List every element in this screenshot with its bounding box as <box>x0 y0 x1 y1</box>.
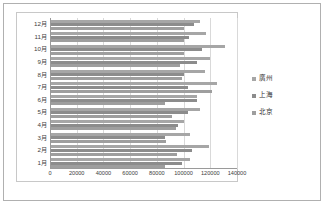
legend-swatch-icon <box>252 111 256 115</box>
bar <box>50 57 210 60</box>
x-tick-label: 20000 <box>69 171 85 177</box>
bar <box>50 140 166 143</box>
legend-label: 廣州 <box>259 75 273 82</box>
x-tick-label: 120000 <box>201 171 220 177</box>
bar <box>50 99 197 102</box>
category-label: 3月 <box>38 135 47 141</box>
x-tick-label: 40000 <box>96 171 112 177</box>
bar <box>50 48 202 51</box>
bar <box>50 86 188 89</box>
bar <box>50 111 188 114</box>
bar <box>50 52 184 55</box>
bar <box>50 39 184 42</box>
category-label: 7月 <box>38 84 47 90</box>
bar <box>50 162 182 165</box>
bar <box>50 153 177 156</box>
category-label: 4月 <box>38 122 47 128</box>
category-label: 6月 <box>38 97 47 103</box>
bar <box>50 102 165 105</box>
category-label: 5月 <box>38 109 47 115</box>
chart-legend: 廣州上海北京 <box>252 74 314 125</box>
x-tick-label: 80000 <box>149 171 165 177</box>
y-axis-line <box>50 18 51 169</box>
bar <box>50 127 176 130</box>
category-label: 2月 <box>38 147 47 153</box>
legend-swatch-icon <box>252 77 256 81</box>
category-label: 12月 <box>34 21 47 27</box>
bar <box>50 70 205 73</box>
bar <box>50 158 190 161</box>
x-axis-line <box>50 168 237 169</box>
x-tick-label: 0 <box>48 171 51 177</box>
gridline <box>237 18 238 169</box>
bar <box>50 95 197 98</box>
chart-frame: 1月2月3月4月5月6月7月8月9月10月11月12月 020000400006… <box>3 3 321 201</box>
x-tick-label: 60000 <box>122 171 138 177</box>
bar-group: 11月 <box>50 31 237 44</box>
bar-group: 12月 <box>50 18 237 31</box>
category-label: 1月 <box>38 160 47 166</box>
legend-swatch-icon <box>252 94 256 98</box>
bar <box>50 27 184 30</box>
bar <box>50 115 172 118</box>
x-tick-label: 100000 <box>174 171 193 177</box>
bar-group: 4月 <box>50 119 237 132</box>
legend-item[interactable]: 北京 <box>252 108 314 117</box>
bar <box>50 124 178 127</box>
bar-group: 7月 <box>50 81 237 94</box>
bar <box>50 61 197 64</box>
bar <box>50 23 194 26</box>
bar <box>50 36 189 39</box>
legend-label: 北京 <box>259 109 273 116</box>
bar-group: 9月 <box>50 56 237 69</box>
bar-group: 10月 <box>50 43 237 56</box>
bar <box>50 32 206 35</box>
bar-group: 3月 <box>50 131 237 144</box>
legend-label: 上海 <box>259 92 273 99</box>
bar <box>50 20 200 23</box>
bar <box>50 77 182 80</box>
legend-item[interactable]: 廣州 <box>252 74 314 83</box>
bar <box>50 136 165 139</box>
bar <box>50 73 184 76</box>
category-label: 10月 <box>34 46 47 52</box>
bar-group: 8月 <box>50 68 237 81</box>
bar-group: 6月 <box>50 94 237 107</box>
category-label: 9月 <box>38 59 47 65</box>
category-label: 8月 <box>38 72 47 78</box>
bar-group: 5月 <box>50 106 237 119</box>
bar <box>50 82 217 85</box>
bar <box>50 108 200 111</box>
bar <box>50 45 225 48</box>
x-tick-label: 140000 <box>228 171 247 177</box>
bar <box>50 120 184 123</box>
plot-area: 1月2月3月4月5月6月7月8月9月10月11月12月 020000400006… <box>50 18 237 169</box>
category-label: 11月 <box>35 34 47 40</box>
legend-item[interactable]: 上海 <box>252 91 314 100</box>
bar <box>50 90 212 93</box>
bar <box>50 133 190 136</box>
plot-border: 1月2月3月4月5月6月7月8月9月10月11月12月 020000400006… <box>16 12 238 182</box>
bar <box>50 149 192 152</box>
bar <box>50 64 180 67</box>
bar <box>50 145 209 148</box>
bar-group: 2月 <box>50 144 237 157</box>
